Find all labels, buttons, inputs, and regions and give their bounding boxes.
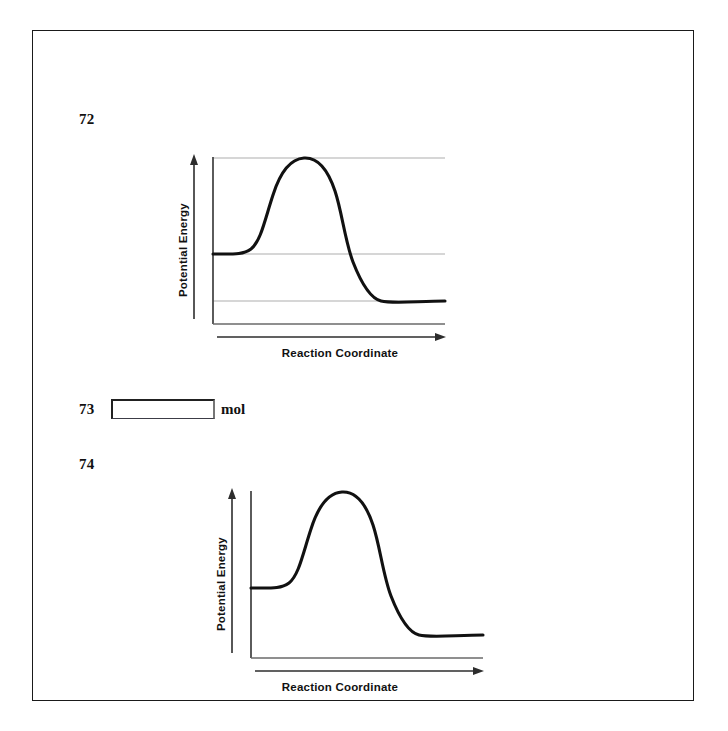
- axis-lines-2: [251, 491, 483, 658]
- answer-blank-input-73[interactable]: [111, 399, 215, 419]
- x-axis-label-2: Reaction Coordinate: [215, 681, 465, 693]
- x-axis-arrow-1: [217, 333, 446, 341]
- energy-curve-1: [213, 158, 445, 302]
- y-axis-label-1: Potential Energy: [177, 203, 189, 297]
- unit-label-mol: mol: [221, 402, 245, 417]
- x-axis-arrow-2: [255, 667, 484, 675]
- question-number-73: 73: [79, 402, 95, 417]
- energy-profile-chart-2: [205, 483, 505, 698]
- energy-profile-chart-1: [167, 149, 467, 364]
- energy-curve-2: [251, 492, 483, 636]
- worksheet-page-border: 72 73 mol 74: [32, 30, 694, 701]
- question-73-answer-row: mol: [111, 399, 245, 419]
- y-axis-label-2: Potential Energy: [215, 537, 227, 631]
- y-axis-arrow-2: [228, 488, 236, 653]
- x-axis-label-1: Reaction Coordinate: [215, 347, 465, 359]
- question-number-74: 74: [79, 457, 95, 472]
- question-number-72: 72: [79, 112, 95, 127]
- axis-lines-1: [213, 157, 445, 324]
- potential-energy-diagram-1: Potential Energy Reaction Coordinate: [167, 149, 467, 364]
- potential-energy-diagram-2: Potential Energy Reaction Coordinate: [205, 483, 505, 698]
- y-axis-arrow-1: [190, 154, 198, 319]
